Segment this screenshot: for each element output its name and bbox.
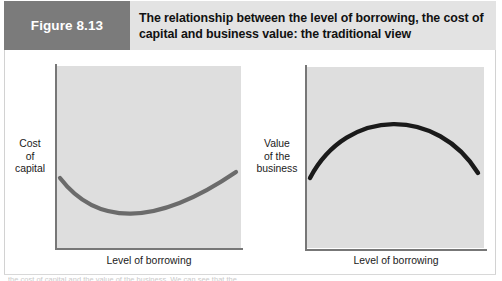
chart-y-axis-line [55, 64, 57, 249]
chart-x-axis-label: Level of borrowing [55, 254, 243, 267]
cropped-body-text: the cost of capital and the value of the… [8, 275, 494, 281]
charts-area: Cost of capital Level of borrowing Value… [4, 50, 496, 274]
figure-title: The relationship between the level of bo… [139, 4, 491, 48]
chart-x-axis-line [305, 249, 487, 251]
chart-y-axis-line [305, 65, 307, 250]
chart-y-axis-label: Value of the business [250, 138, 304, 176]
chart-plot-panel [56, 66, 241, 248]
chart-y-axis-label-line-2: of [6, 151, 54, 164]
figure-title-line-1: The relationship between the level of bo… [139, 10, 491, 27]
chart-x-axis-line [55, 248, 243, 250]
chart-value-of-business: Value of the business Level of borrowing [250, 50, 496, 274]
figure-number-label: Figure 8.13 [31, 18, 103, 33]
chart-y-axis-label-line-3: business [250, 163, 304, 176]
chart-y-axis-label-line-1: Value [250, 138, 304, 151]
figure-container: Figure 8.13 The relationship between the… [0, 0, 502, 281]
chart-x-axis-label: Level of borrowing [305, 254, 487, 267]
chart-cost-of-capital: Cost of capital Level of borrowing [4, 50, 250, 274]
chart-y-axis-label-line-3: capital [6, 163, 54, 176]
figure-title-line-2: capital and business value: the traditio… [139, 26, 491, 43]
chart-y-axis-label-line-2: of the [250, 151, 304, 164]
figure-number-badge: Figure 8.13 [4, 1, 130, 50]
chart-plot-panel [306, 67, 484, 248]
chart-y-axis-label-line-1: Cost [6, 138, 54, 151]
chart-y-axis-label: Cost of capital [6, 138, 54, 176]
